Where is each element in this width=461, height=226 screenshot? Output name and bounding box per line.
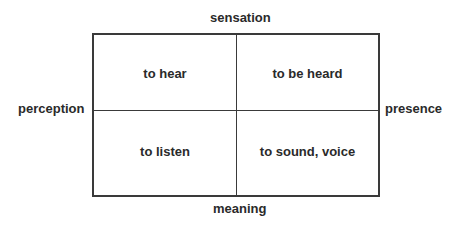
quadrant-bottom-right: to sound, voice bbox=[237, 144, 378, 159]
horizontal-divider bbox=[94, 110, 378, 111]
quadrant-top-right: to be heard bbox=[237, 66, 378, 81]
axis-label-left: perception bbox=[18, 101, 84, 116]
axis-label-right: presence bbox=[385, 101, 442, 116]
vertical-divider bbox=[236, 35, 237, 195]
axis-label-bottom: meaning bbox=[213, 201, 266, 216]
axis-label-top: sensation bbox=[210, 10, 271, 25]
quadrant-bottom-left: to listen bbox=[94, 144, 236, 159]
quadrant-top-left: to hear bbox=[94, 66, 236, 81]
